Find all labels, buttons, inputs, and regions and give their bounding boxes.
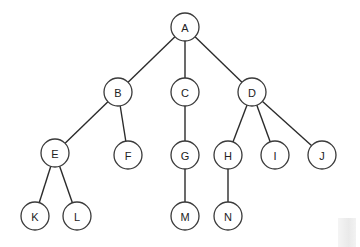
node-label: B xyxy=(114,87,121,99)
node-a: A xyxy=(171,13,199,41)
node-label: M xyxy=(180,211,189,223)
node-label: H xyxy=(224,150,232,162)
node-label: L xyxy=(74,211,80,223)
node-h: H xyxy=(214,141,242,169)
node-label: C xyxy=(181,87,189,99)
node-k: K xyxy=(21,202,49,230)
node-g: G xyxy=(171,141,199,169)
node-i: I xyxy=(261,141,289,169)
scan-smudge xyxy=(338,218,356,247)
node-label: I xyxy=(273,150,276,162)
node-label: N xyxy=(224,211,232,223)
node-f: F xyxy=(114,141,142,169)
node-label: D xyxy=(248,87,256,99)
node-label: A xyxy=(181,22,189,34)
node-l: L xyxy=(63,202,91,230)
tree-diagram: ABCDEFGHIJKLMN xyxy=(0,0,360,247)
node-e: E xyxy=(41,139,69,167)
node-c: C xyxy=(171,78,199,106)
node-m: M xyxy=(171,202,199,230)
node-n: N xyxy=(214,202,242,230)
node-label: E xyxy=(51,148,58,160)
node-label: G xyxy=(181,150,190,162)
node-b: B xyxy=(104,78,132,106)
node-label: K xyxy=(31,211,39,223)
edges-layer xyxy=(35,27,322,216)
node-label: F xyxy=(125,150,132,162)
nodes-layer: ABCDEFGHIJKLMN xyxy=(21,13,336,230)
node-j: J xyxy=(308,141,336,169)
node-d: D xyxy=(238,78,266,106)
node-label: J xyxy=(319,150,325,162)
